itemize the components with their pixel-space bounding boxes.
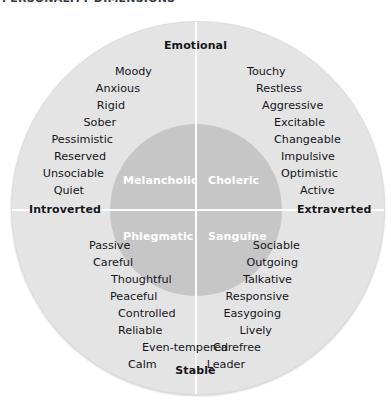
trait-word-melancholic: Pessimistic — [52, 134, 113, 145]
pole-label-stable: Stable — [0, 364, 391, 377]
trait-word-choleric: Aggressive — [262, 100, 323, 111]
trait-word-sanguine: Responsive — [226, 291, 289, 302]
pole-label-introverted: Introverted — [29, 203, 101, 216]
trait-word-phlegmatic: Passive — [89, 240, 130, 251]
trait-word-choleric: Active — [300, 185, 335, 196]
trait-word-phlegmatic: Careful — [93, 257, 133, 268]
trait-word-phlegmatic: Peaceful — [110, 291, 157, 302]
trait-word-choleric: Impulsive — [281, 151, 335, 162]
clipped-header-strip: PERSONALITY DIMENSIONS — [0, 0, 228, 5]
trait-word-phlegmatic: Thoughtful — [111, 274, 172, 285]
quadrant-label-choleric: Choleric — [208, 174, 259, 187]
trait-word-phlegmatic: Reliable — [118, 325, 162, 336]
trait-word-sanguine: Leader — [207, 359, 245, 370]
trait-word-melancholic: Quiet — [54, 185, 84, 196]
trait-word-phlegmatic: Controlled — [118, 308, 176, 319]
trait-word-melancholic: Moody — [115, 66, 152, 77]
trait-word-choleric: Optimistic — [281, 168, 338, 179]
trait-word-melancholic: Unsociable — [43, 168, 104, 179]
clipped-header-text: PERSONALITY DIMENSIONS — [2, 0, 175, 5]
personality-dimensions-diagram: PERSONALITY DIMENSIONS Emotional Stable … — [0, 0, 391, 410]
trait-word-melancholic: Anxious — [96, 83, 140, 94]
trait-word-choleric: Changeable — [274, 134, 341, 145]
trait-word-sanguine: Lively — [239, 325, 272, 336]
trait-word-phlegmatic: Calm — [128, 359, 157, 370]
vertical-axis-line — [195, 22, 197, 394]
trait-word-sanguine: Outgoing — [246, 257, 298, 268]
pole-label-extraverted: Extraverted — [297, 203, 371, 216]
trait-word-choleric: Excitable — [274, 117, 325, 128]
trait-word-sanguine: Talkative — [243, 274, 292, 285]
quadrant-label-melancholic: Melancholic — [123, 174, 198, 187]
trait-word-sanguine: Sociable — [253, 240, 300, 251]
trait-word-melancholic: Reserved — [54, 151, 106, 162]
trait-word-sanguine: Carefree — [213, 342, 261, 353]
trait-word-choleric: Touchy — [247, 66, 286, 77]
trait-word-sanguine: Easygoing — [223, 308, 281, 319]
trait-word-melancholic: Sober — [83, 117, 116, 128]
trait-word-choleric: Restless — [256, 83, 302, 94]
quadrant-label-phlegmatic: Phlegmatic — [123, 230, 193, 243]
trait-word-melancholic: Rigid — [97, 100, 125, 111]
pole-label-emotional: Emotional — [0, 39, 391, 52]
